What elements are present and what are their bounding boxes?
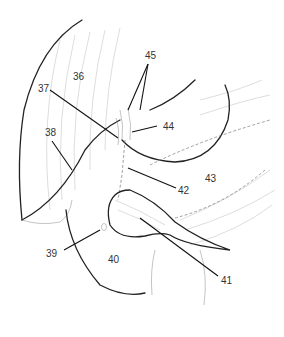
label-43: 43 [205,174,216,184]
outline-oval [108,190,230,250]
contour-hatching [47,28,275,245]
label-39: 39 [46,249,57,259]
outline-lower-mass [66,210,145,294]
illustration-drawing [0,0,284,337]
label-41: 41 [221,276,232,286]
label-42: 42 [178,186,189,196]
label-38: 38 [45,128,56,138]
label-36: 36 [73,72,84,82]
label-44: 44 [163,122,174,132]
outline-left-mass [19,20,82,220]
label-37: 37 [38,84,49,94]
anatomical-figure: 36 37 38 39 40 41 42 43 44 45 [0,0,284,337]
small-loop [102,224,107,231]
label-45: 45 [145,51,156,61]
label-40: 40 [108,255,119,265]
outline-upper-fold [150,80,195,110]
